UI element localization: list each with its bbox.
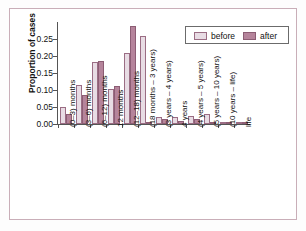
y-axis-tick-label: 0.00 <box>36 120 53 128</box>
legend-item-before: before <box>194 30 235 41</box>
y-axis-tick <box>53 107 57 108</box>
x-axis-tick-label: (3 years – 4 years) <box>165 60 173 127</box>
y-axis-tick <box>53 39 57 40</box>
x-axis-tick-label: (6–12) months <box>101 75 109 127</box>
x-axis-tick-label: (0–3) months <box>69 80 77 127</box>
y-axis-tick-label: 0.05 <box>36 103 53 111</box>
y-axis-tick <box>53 90 57 91</box>
legend-label-after: after <box>260 31 277 41</box>
x-axis-tick-label: (4 years – 5 years) <box>197 60 205 127</box>
y-axis-tick <box>53 124 57 125</box>
x-axis-tick-label: 4 years <box>181 101 189 127</box>
x-axis-tick-label: 12 months <box>117 90 125 127</box>
x-axis-tick-label: (3–6) months <box>85 80 93 127</box>
x-axis-tick-label: (10 years – life) <box>229 72 237 127</box>
x-axis-tick-label: (12–18) months <box>133 71 141 127</box>
legend-swatch-before-icon <box>194 32 207 40</box>
figure-canvas: Proportion of cases 0.000.050.100.150.20… <box>0 0 306 231</box>
bar-before <box>60 107 66 124</box>
x-axis-tick-label: (18 months – 3 years) <box>149 49 157 127</box>
y-axis-tick <box>53 73 57 74</box>
x-axis-tick-label: life <box>245 117 253 127</box>
legend-item-after: after <box>243 30 277 41</box>
x-axis-tick-label: (5 years – 10 years) <box>213 56 221 127</box>
y-axis-tick-labels: 0.000.050.100.150.200.25 <box>18 22 53 125</box>
y-axis-line <box>57 22 58 125</box>
y-axis-tick <box>53 56 57 57</box>
x-axis-tick-labels: (0–3) months(3–6) months(6–12) months12 … <box>57 127 257 223</box>
y-axis-tick-label: 0.20 <box>36 52 53 60</box>
legend-swatch-after-icon <box>243 32 256 40</box>
legend-label-before: before <box>211 31 235 41</box>
y-axis-tick-label: 0.25 <box>36 35 53 43</box>
legend: before after <box>185 26 289 44</box>
y-axis-tick-label: 0.15 <box>36 69 53 77</box>
y-axis-tick-label: 0.10 <box>36 86 53 94</box>
